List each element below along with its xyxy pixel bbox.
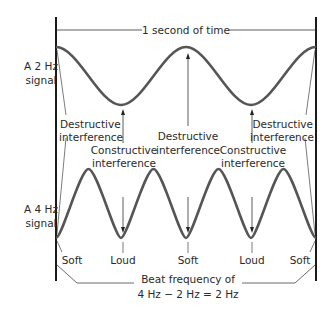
- wave-4hz: [56, 169, 316, 238]
- arrow-head-up-icon: [250, 109, 254, 115]
- label-destructive-center-2: interference: [156, 144, 220, 156]
- signal-2hz-label-line2: signal: [25, 74, 56, 86]
- arrow-head-down-icon: [250, 227, 254, 233]
- label-destructive-left-1: Destructive: [60, 118, 121, 130]
- label-destructive-right-1: Destructive: [252, 118, 313, 130]
- arrow-head-up-icon: [186, 53, 190, 59]
- beat-label-line2: 4 Hz − 2 Hz = 2 Hz: [137, 288, 239, 300]
- loudness-label-3: Soft: [178, 254, 199, 266]
- leader-destructive-left-top: [57, 50, 66, 115]
- label-constructive-left-1: Constructive: [91, 144, 157, 156]
- loudness-label-5: Soft: [290, 254, 311, 266]
- signal-2hz-label-line1: A 2 Hz: [24, 60, 58, 72]
- signal-4hz-label-line2: signal: [25, 217, 56, 229]
- signal-4hz-label-line1: A 4 Hz: [24, 203, 58, 215]
- label-constructive-left-2: interference: [92, 157, 156, 169]
- loudness-label-2: Loud: [110, 254, 135, 266]
- beat-label-line1: Beat frequency of: [141, 273, 235, 285]
- loudness-label-4: Loud: [239, 254, 264, 266]
- wave-2hz: [56, 47, 316, 105]
- leader-destructive-right-top: [306, 50, 315, 115]
- time-span-label: 1 second of time: [142, 24, 230, 36]
- label-destructive-left-2: interference: [59, 131, 123, 143]
- label-destructive-center-1: Destructive: [158, 130, 219, 142]
- loudness-label-1: Soft: [62, 254, 83, 266]
- tick-soft-right: [310, 241, 315, 252]
- label-constructive-right-2: interference: [221, 157, 285, 169]
- label-destructive-right-2: interference: [250, 131, 314, 143]
- beat-frequency-diagram: 1 second of time A 2 Hz signal A 4 Hz si…: [0, 0, 329, 313]
- beat-bracket-right: [242, 265, 315, 283]
- arrow-head-up-icon: [121, 109, 125, 115]
- beat-bracket-left: [57, 265, 134, 283]
- tick-soft-left: [57, 241, 62, 252]
- label-constructive-right-1: Constructive: [220, 144, 286, 156]
